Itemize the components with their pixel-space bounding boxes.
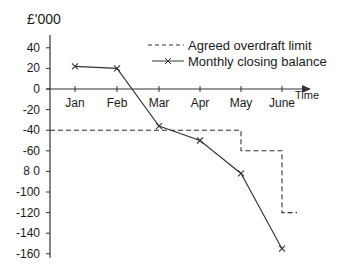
- y-tick-label: -160: [16, 247, 40, 261]
- legend-label-balance: Monthly closing balance: [188, 54, 327, 69]
- y-tick-label: -100: [16, 185, 40, 199]
- x-marker-icon: [197, 138, 203, 144]
- y-tick-label: 20: [27, 61, 41, 75]
- y-tick-label: -60: [23, 144, 41, 158]
- y-tick-label: 8 0: [23, 164, 40, 178]
- y-tick-label: -120: [16, 206, 40, 220]
- x-tick-label: May: [230, 96, 253, 110]
- y-axis: 40200-20-40-608 0-100-120-140-160: [16, 35, 50, 261]
- legend: Agreed overdraft limitMonthly closing ba…: [148, 38, 327, 69]
- y-tick-label: 0: [33, 82, 40, 96]
- x-axis-title: Time: [295, 89, 319, 101]
- x-tick-label: Feb: [107, 96, 128, 110]
- x-tick-label: Mar: [149, 96, 170, 110]
- y-tick-label: -40: [23, 123, 41, 137]
- y-tick-label: -20: [23, 103, 41, 117]
- x-axis: JanFebMarAprMayJuneTime: [46, 85, 319, 110]
- x-tick-label: Jan: [65, 96, 84, 110]
- x-marker-icon: [238, 170, 244, 176]
- y-tick-label: 40: [27, 41, 41, 55]
- y-tick-label: -140: [16, 226, 40, 240]
- legend-label-overdraft: Agreed overdraft limit: [188, 38, 312, 53]
- y-axis-unit-label: £'000: [27, 11, 61, 27]
- x-marker-icon: [156, 123, 162, 129]
- x-tick-label: Apr: [191, 96, 210, 110]
- closing-balance-series: [72, 63, 285, 251]
- overdraft-limit-series: [50, 130, 297, 212]
- x-tick-label: June: [269, 96, 295, 110]
- chart: £'000 40200-20-40-608 0-100-120-140-160 …: [0, 0, 343, 270]
- x-marker-icon: [279, 246, 285, 252]
